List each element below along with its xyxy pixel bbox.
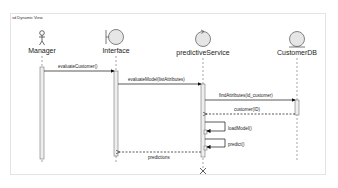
lifeline-label: CustomerDB xyxy=(277,49,317,56)
message-label: evaluateCustomer() xyxy=(58,64,98,69)
destroy-icon xyxy=(200,168,206,174)
message-label: predictions xyxy=(148,155,170,160)
lifeline-label: Interface xyxy=(102,47,129,54)
message-label: evaluateModel(listAttributes) xyxy=(128,77,185,82)
self-message-arrow xyxy=(205,122,225,131)
self-message-arrow xyxy=(205,139,225,147)
actor-icon xyxy=(39,31,45,45)
boundary-icon xyxy=(106,30,124,45)
message-label: loadModel() xyxy=(228,126,252,131)
message-label: customer(ID) xyxy=(234,107,260,112)
lifeline-label: predictiveService xyxy=(176,49,229,56)
message-label: predict() xyxy=(228,142,245,147)
entity-icon xyxy=(289,32,305,48)
lifeline-label: Manager xyxy=(28,47,56,54)
lifelines xyxy=(42,56,297,168)
message-label: findAttributes(id_customer) xyxy=(219,93,273,98)
control-icon xyxy=(196,30,211,47)
